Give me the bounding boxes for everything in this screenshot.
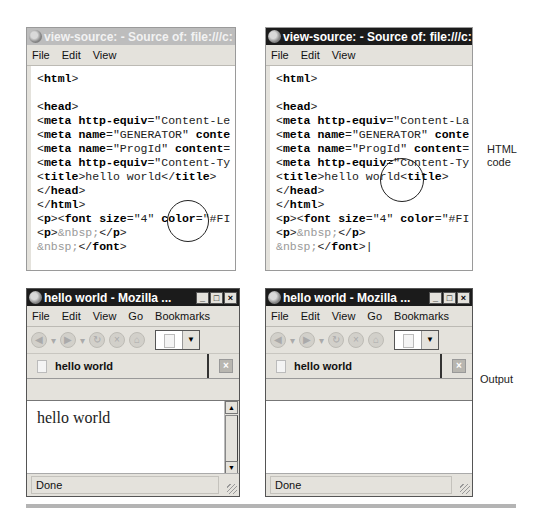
menu-edit[interactable]: Edit [301, 49, 320, 61]
menubar: File Edit View Go Bookmarks [27, 306, 239, 327]
menu-go[interactable]: Go [128, 310, 143, 322]
code-line: <meta name="GENERATOR" conte [37, 128, 235, 142]
tab-hello-world[interactable]: hello world [266, 354, 442, 378]
page-dropdown[interactable]: ▼ [394, 330, 439, 350]
maximize-button[interactable]: □ [210, 292, 223, 304]
window-controls: _ □ × [196, 292, 239, 304]
chevron-down-icon[interactable]: ▼ [421, 331, 438, 349]
code-line: <meta name="ProgId" content= [276, 142, 472, 156]
code-line: <meta http-equiv="Content-La [276, 114, 472, 128]
source-code-view[interactable]: <html><head><meta http-equiv="Content-Le… [27, 66, 235, 270]
reload-icon[interactable]: ↻ [89, 332, 105, 348]
source-window-left-titlebar[interactable]: view-source: - Source of: file:///c: [27, 28, 235, 45]
code-line: </head> [276, 184, 472, 198]
vertical-scrollbar[interactable]: ▲ ▼ [224, 401, 239, 474]
stop-icon[interactable]: × [348, 332, 364, 348]
browser-window-left: hello world - Mozilla ... _ □ × File Edi… [26, 288, 240, 497]
menu-view[interactable]: View [93, 310, 117, 322]
firefox-logo-icon [268, 291, 281, 304]
code-line: <html> [37, 72, 235, 86]
resize-grip-icon[interactable] [227, 484, 237, 494]
menu-view[interactable]: View [332, 310, 356, 322]
tab-hello-world[interactable]: hello world [27, 354, 209, 378]
output-label: Output [480, 373, 513, 386]
close-tab-icon[interactable]: × [219, 359, 233, 373]
forward-icon[interactable]: ▶ [60, 332, 76, 348]
menu-edit[interactable]: Edit [62, 49, 81, 61]
navigation-toolbar: ◀▾ ▶▾ ↻ × ⌂ ▼ [27, 327, 239, 354]
code-line: <p><font size="4" color="#FI [276, 212, 472, 226]
page-icon [276, 360, 286, 373]
menu-view[interactable]: View [332, 49, 356, 61]
window-title: hello world - Mozilla ... [44, 291, 171, 305]
browser-window-right: hello world - Mozilla ... _ □ × File Edi… [265, 288, 473, 497]
page-icon [156, 331, 182, 349]
tab-bar: hello world × [27, 354, 239, 379]
back-dropdown-icon[interactable]: ▾ [51, 335, 56, 346]
stop-icon[interactable]: × [109, 332, 125, 348]
menu-file[interactable]: File [271, 310, 289, 322]
scroll-up-icon[interactable]: ▲ [225, 401, 238, 414]
forward-icon[interactable]: ▶ [299, 332, 315, 348]
menu-file[interactable]: File [32, 49, 50, 61]
code-line: <head> [276, 100, 472, 114]
html-code-label-line2: code [487, 156, 517, 169]
page-dropdown[interactable]: ▼ [155, 330, 200, 350]
forward-dropdown-icon[interactable]: ▾ [80, 335, 85, 346]
source-code-view[interactable]: <html><head><meta http-equiv="Content-La… [266, 66, 472, 270]
menu-bookmarks[interactable]: Bookmarks [155, 310, 210, 322]
code-line [276, 86, 472, 100]
close-button[interactable]: × [457, 292, 470, 304]
menu-go[interactable]: Go [367, 310, 382, 322]
menubar: File Edit View [266, 45, 472, 66]
home-icon[interactable]: ⌂ [129, 332, 145, 348]
browser-titlebar[interactable]: hello world - Mozilla ... _ □ × [266, 289, 472, 306]
menubar: File Edit View [27, 45, 235, 66]
back-dropdown-icon[interactable]: ▾ [290, 335, 295, 346]
back-icon[interactable]: ◀ [31, 332, 47, 348]
menu-view[interactable]: View [93, 49, 117, 61]
page-content: hello world ▲ ▼ [27, 400, 239, 474]
source-window-left: view-source: - Source of: file:///c: Fil… [26, 27, 236, 271]
back-icon[interactable]: ◀ [270, 332, 286, 348]
window-title: hello world - Mozilla ... [283, 291, 410, 305]
page-text: hello world [27, 401, 239, 427]
status-text: Done [31, 476, 219, 494]
minimize-button[interactable]: _ [429, 292, 442, 304]
code-line: <title>hello world</title> [37, 170, 235, 184]
code-line: <p>&nbsp;</p> [276, 226, 472, 240]
highlight-circle [380, 158, 424, 202]
close-button[interactable]: × [224, 292, 237, 304]
menu-edit[interactable]: Edit [62, 310, 81, 322]
page-icon [37, 360, 47, 373]
page-content [266, 400, 472, 474]
reload-icon[interactable]: ↻ [328, 332, 344, 348]
close-tab-icon[interactable]: × [452, 359, 466, 373]
code-line: <meta name="GENERATOR" conte [276, 128, 472, 142]
code-line: <meta http-equiv="Content-Ty [37, 156, 235, 170]
firefox-logo-icon [29, 30, 42, 43]
home-icon[interactable]: ⌂ [368, 332, 384, 348]
resize-grip-icon[interactable] [460, 484, 470, 494]
minimize-button[interactable]: _ [196, 292, 209, 304]
tab-bar: hello world × [266, 354, 472, 379]
menu-edit[interactable]: Edit [301, 310, 320, 322]
source-window-right-titlebar[interactable]: view-source: - Source of: file:///c: [266, 28, 472, 45]
code-line: <head> [37, 100, 235, 114]
tab-label: hello world [55, 360, 113, 372]
menu-bookmarks[interactable]: Bookmarks [394, 310, 449, 322]
menu-file[interactable]: File [271, 49, 289, 61]
maximize-button[interactable]: □ [443, 292, 456, 304]
browser-titlebar[interactable]: hello world - Mozilla ... _ □ × [27, 289, 239, 306]
chevron-down-icon[interactable]: ▼ [182, 331, 199, 349]
window-title: view-source: - Source of: file:///c: [44, 30, 233, 44]
window-title: view-source: - Source of: file:///c: [283, 30, 472, 44]
status-text: Done [270, 476, 452, 494]
code-line: &nbsp;</font>| [276, 240, 472, 254]
code-line: <meta http-equiv="Content-Ty [276, 156, 472, 170]
forward-dropdown-icon[interactable]: ▾ [319, 335, 324, 346]
menu-file[interactable]: File [32, 310, 50, 322]
status-bar: Done [27, 473, 239, 496]
firefox-logo-icon [268, 30, 281, 43]
code-line: </html> [276, 198, 472, 212]
